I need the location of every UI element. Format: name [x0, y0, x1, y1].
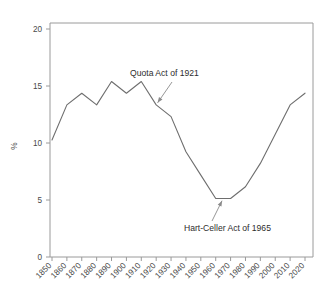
x-tick-label: 1880 — [79, 261, 99, 281]
x-tick-label: 1850 — [34, 261, 54, 281]
y-tick-label-15: 15 — [33, 82, 43, 91]
x-tick-label: 1980 — [228, 261, 248, 281]
x-tick-label: 1970 — [213, 261, 233, 281]
line-chart-figure: 20 15 10 5 0 % 1850186018701880189019001… — [0, 0, 330, 308]
x-tick-label: 2010 — [272, 261, 292, 281]
chart-container: 20 15 10 5 0 % 1850186018701880189019001… — [0, 0, 330, 308]
annotation-label-quota-act: Quota Act of 1921 — [130, 68, 199, 78]
annotation-label-hart-celler-act: Hart-Celler Act of 1965 — [184, 223, 271, 233]
x-axis-ticks: 1850186018701880189019001910192019301940… — [34, 257, 307, 280]
y-axis-ticks — [46, 29, 50, 257]
x-tick-label: 1910 — [123, 261, 143, 281]
x-tick-label: 1860 — [49, 261, 69, 281]
y-tick-label-10: 10 — [33, 139, 43, 148]
x-tick-label: 1900 — [109, 261, 129, 281]
y-axis-tick-labels: 20 15 10 5 0 — [33, 25, 43, 262]
x-tick-label: 2000 — [257, 261, 277, 281]
x-tick-label: 1940 — [168, 261, 188, 281]
y-tick-label-0: 0 — [37, 253, 42, 262]
x-tick-label: 1960 — [198, 261, 218, 281]
x-tick-label: 1890 — [94, 261, 114, 281]
x-tick-label: 1990 — [243, 261, 263, 281]
x-tick-label: 1930 — [153, 261, 173, 281]
x-tick-label: 1950 — [183, 261, 203, 281]
x-tick-label: 1920 — [138, 261, 158, 281]
y-axis-title: % — [10, 142, 19, 149]
x-tick-label: 2020 — [287, 261, 307, 281]
y-tick-label-20: 20 — [33, 25, 43, 34]
y-tick-label-5: 5 — [37, 196, 42, 205]
x-tick-label: 1870 — [64, 261, 84, 281]
